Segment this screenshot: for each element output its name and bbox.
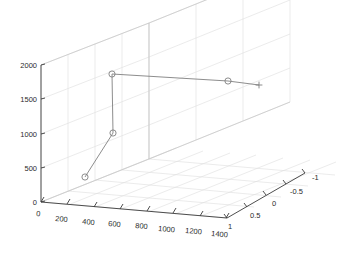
y-tick-label: -1 — [312, 173, 319, 182]
y-tick-label: 0.5 — [250, 211, 260, 220]
x-tick-label: 1000 — [158, 224, 175, 234]
axis-lines — [41, 65, 305, 218]
axes-box-edges — [41, 0, 290, 202]
figure-window: 2000 1500 1000 500 0 0 200 400 600 800 1… — [0, 0, 340, 256]
x-tick-label: 600 — [108, 219, 121, 229]
back-right-wall-grid — [149, 0, 290, 159]
x-axis-tick-labels: 0 200 400 600 800 1000 1200 1400 — [36, 209, 228, 239]
x-tick-label: 1200 — [185, 226, 202, 236]
data-line — [85, 74, 259, 177]
z-tick-label: 500 — [24, 164, 37, 173]
z-axis-tick-labels: 2000 1500 1000 500 0 — [20, 61, 37, 207]
x-tick-label: 1400 — [211, 229, 228, 239]
y-tick-label: -0.5 — [290, 187, 303, 196]
z-tick-label: 1500 — [20, 95, 37, 104]
x-tick-label: 0 — [36, 209, 41, 218]
y-tick-label: 0 — [272, 199, 276, 208]
plot-3d-axes: 2000 1500 1000 500 0 0 200 400 600 800 1… — [0, 0, 340, 256]
floor-grid — [41, 148, 336, 218]
z-tick-label: 0 — [33, 198, 37, 207]
x-axis-ticks — [41, 197, 229, 218]
x-tick-label: 800 — [135, 221, 148, 231]
data-endpoint-marker — [256, 82, 263, 89]
x-tick-label: 400 — [82, 217, 95, 227]
z-tick-label: 1000 — [20, 130, 37, 139]
z-tick-label: 2000 — [20, 61, 37, 70]
y-axis-tick-labels: 1 0.5 0 -0.5 -1 — [228, 173, 319, 231]
back-left-wall-grid — [41, 23, 149, 202]
data-series-layer — [82, 71, 263, 180]
x-tick-label: 200 — [55, 214, 68, 224]
y-tick-label: 1 — [228, 222, 232, 231]
